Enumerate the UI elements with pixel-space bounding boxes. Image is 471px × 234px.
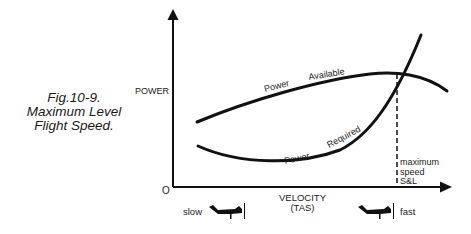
x-axis-label-line-2: (TAS) — [279, 203, 326, 213]
origin-label: O — [162, 185, 170, 196]
power-required-curve — [198, 35, 421, 161]
power-velocity-diagram: Power Available Power Required — [0, 0, 471, 234]
x-axis-label: VELOCITY (TAS) — [279, 193, 326, 213]
power-required-label-word2: Required — [325, 124, 362, 150]
power-available-curve — [197, 73, 447, 122]
airplane-fast-icon — [358, 203, 394, 219]
power-required-label-word1: Power — [283, 151, 310, 166]
max-speed-annotation: maximum speed S&L — [400, 158, 439, 187]
airplane-slow-icon — [209, 203, 245, 219]
y-axis-arrow-icon — [168, 9, 179, 20]
fast-label: fast — [400, 206, 415, 217]
slow-label: slow — [183, 206, 202, 217]
max-speed-line-3: S&L — [400, 177, 439, 187]
x-axis-arrow-icon — [440, 182, 452, 193]
y-axis-label: POWER — [135, 86, 169, 96]
